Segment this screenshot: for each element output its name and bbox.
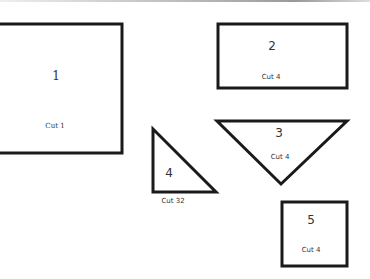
piece-4-outline [153,129,216,192]
piece-3-number: 3 [275,126,283,140]
piece-1-outline [0,24,122,153]
piece-5-outline [282,202,347,266]
piece-2: 2 Cut 4 [218,24,347,88]
piece-2-cut-label: Cut 4 [262,73,281,81]
piece-3: 3 Cut 4 [217,121,347,184]
piece-4-cut-label: Cut 32 [161,197,184,205]
piece-1-number: 1 [52,69,60,83]
piece-1-cut-label: Cut 1 [45,122,64,130]
piece-4: 4 Cut 32 [153,129,216,205]
piece-3-cut-label: Cut 4 [271,153,290,161]
piece-5: 5 Cut 4 [282,202,347,266]
piece-5-cut-label: Cut 4 [302,246,321,254]
piece-5-number: 5 [307,213,315,227]
piece-4-number: 4 [165,166,173,180]
quilt-pattern-diagram: 1 Cut 1 2 Cut 4 3 Cut 4 4 Cut 32 5 Cut 4 [0,0,370,279]
piece-2-outline [218,24,347,88]
piece-2-number: 2 [268,39,276,53]
piece-1: 1 Cut 1 [0,24,122,153]
